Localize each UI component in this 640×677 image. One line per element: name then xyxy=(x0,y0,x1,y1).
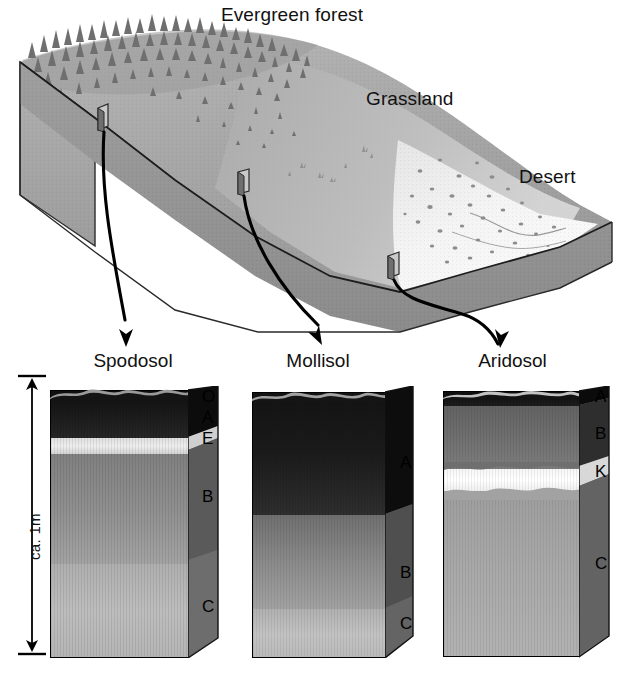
aridosol-surface-litter xyxy=(443,386,580,400)
arrowhead-spodosol xyxy=(119,329,133,347)
spodosol-texture xyxy=(51,391,188,657)
soil-profile-spodosol: O A E B C xyxy=(50,386,225,658)
spodosol-label-E: E xyxy=(202,430,213,447)
spodosol-label-C: C xyxy=(202,598,214,615)
soil-profile-mollisol: A B C xyxy=(252,386,422,658)
profile-title-mollisol: Mollisol xyxy=(248,350,388,372)
biome-label-desert: Desert xyxy=(519,166,576,188)
mollisol-label-B: B xyxy=(400,564,411,581)
arrowhead-mollisol xyxy=(308,325,322,345)
aridosol-K-boundary xyxy=(444,462,580,500)
spodosol-label-O: O xyxy=(202,388,215,405)
aridosol-label-B: B xyxy=(595,425,606,442)
aridosol-label-K: K xyxy=(595,463,606,480)
mollisol-front-face xyxy=(252,392,386,658)
aridosol-label-A: A xyxy=(595,388,606,405)
aridosol-label-C: C xyxy=(595,555,607,572)
profile-title-aridosol: Aridosol xyxy=(440,350,585,372)
sample-site-notch-grassland xyxy=(238,169,249,196)
spodosol-front-face xyxy=(50,390,189,658)
spodosol-surface-litter xyxy=(50,386,189,400)
mollisol-label-C: C xyxy=(400,615,412,632)
mollisol-texture xyxy=(253,393,385,657)
aridosol-front-face xyxy=(443,391,580,657)
soil-profile-aridosol: A B K C xyxy=(443,386,618,658)
biome-label-grassland: Grassland xyxy=(366,88,454,110)
spodosol-label-A: A xyxy=(202,409,213,426)
mollisol-label-A: A xyxy=(400,454,411,471)
spodosol-label-B: B xyxy=(202,488,213,505)
mollisol-surface-litter xyxy=(252,388,386,402)
scale-bar-label: ca. 1m xyxy=(26,513,43,560)
profile-title-spodosol: Spodosol xyxy=(58,350,208,372)
aridosol-texture xyxy=(444,392,579,656)
figure-canvas: Evergreen forest Grassland Desert ca. 1m… xyxy=(0,0,640,677)
biome-label-evergreen-forest: Evergreen forest xyxy=(221,4,363,26)
